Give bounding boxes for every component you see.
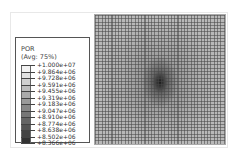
legend-tick [21,98,35,99]
legend-tick [21,137,35,138]
legend-tick [21,143,35,144]
legend-tick [21,111,35,112]
legend-tick [21,117,35,118]
legend-tick [21,78,35,79]
legend-tick [21,104,35,105]
legend-tick [21,91,35,92]
legend-variable-label: POR [21,45,35,53]
mesh-grid-lines [95,15,225,144]
contour-legend: POR (Avg: 75%) +1.000e+07+9.864e+06+9.72… [15,37,90,143]
legend-tick [21,72,35,73]
contour-mesh-plot[interactable] [94,14,226,145]
legend-value-label: +8.366e+06 [37,140,76,147]
legend-averaging-label: (Avg: 75%) [21,53,57,61]
legend-tick [21,85,35,86]
legend-tick [21,124,35,125]
legend-tick [21,65,35,66]
legend-tick [21,130,35,131]
